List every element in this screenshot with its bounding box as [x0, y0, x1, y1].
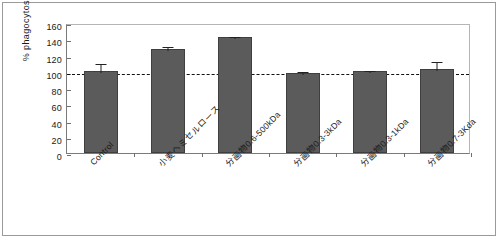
- y-axis-label: % phagocytosis: [21, 0, 31, 97]
- y-tick-mark: [67, 123, 71, 124]
- error-bar-cap: [230, 37, 241, 38]
- error-bar-cap: [163, 47, 174, 48]
- y-tick-100: 100: [46, 65, 67, 83]
- y-tick-160: 160: [46, 16, 67, 34]
- y-tick-label: 160: [46, 22, 67, 32]
- y-tick-mark: [67, 41, 71, 42]
- y-tick-label: 80: [52, 87, 67, 97]
- y-tick-mark: [67, 58, 71, 59]
- figure-root: % phagocytosis 020406080100120140160 Con…: [0, 0, 498, 238]
- y-tick-80: 80: [52, 81, 67, 99]
- error-bar-cap: [365, 71, 376, 72]
- y-tick-0: 0: [57, 146, 67, 164]
- error-bar-cap: [297, 72, 308, 73]
- y-tick-mark: [67, 90, 71, 91]
- error-bar-cap: [432, 62, 443, 63]
- y-tick-mark: [67, 139, 71, 140]
- y-tick-mark: [67, 155, 71, 156]
- y-tick-mark: [67, 106, 71, 107]
- y-tick-40: 40: [52, 114, 67, 132]
- error-bar-line: [100, 64, 101, 73]
- reference-line-100: [67, 74, 469, 75]
- x-tick-mark: [134, 153, 135, 157]
- y-tick-mark: [67, 25, 71, 26]
- bar: [84, 71, 118, 153]
- y-tick-label: 40: [52, 120, 67, 130]
- x-tick-mark: [404, 153, 405, 157]
- bar-group: [84, 25, 118, 153]
- y-tick-label: 100: [46, 71, 67, 81]
- x-tick-mark: [269, 153, 270, 157]
- error-bar-line: [437, 62, 438, 72]
- error-bar-cap: [95, 64, 106, 65]
- y-tick-label: 120: [46, 55, 67, 65]
- y-tick-20: 20: [52, 130, 67, 148]
- x-tick-mark: [202, 153, 203, 157]
- y-tick-120: 120: [46, 49, 67, 67]
- y-tick-label: 0: [57, 152, 67, 162]
- y-tick-label: 140: [46, 38, 67, 48]
- x-tick-mark: [471, 153, 472, 157]
- plot-area: 020406080100120140160: [66, 24, 470, 154]
- y-tick-label: 20: [52, 136, 67, 146]
- y-tick-label: 60: [52, 103, 67, 113]
- y-tick-60: 60: [52, 97, 67, 115]
- y-tick-140: 140: [46, 32, 67, 50]
- x-tick-mark: [336, 153, 337, 157]
